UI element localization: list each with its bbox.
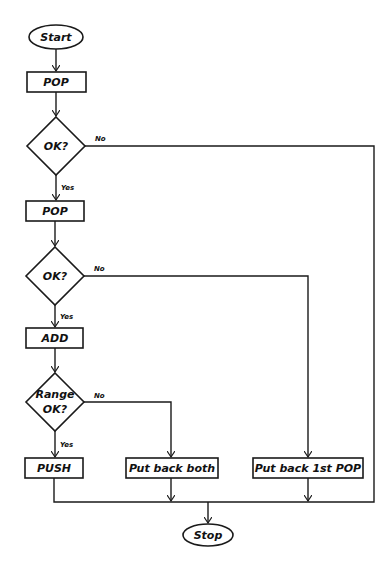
node-put-back-1st-pop: Put back 1st POP: [253, 458, 363, 478]
range-yes-label: Yes: [60, 441, 73, 449]
ok1-yes-label: Yes: [61, 184, 74, 192]
stop-label: Stop: [194, 529, 223, 542]
start-label: Start: [40, 31, 72, 44]
add-label: ADD: [41, 332, 69, 345]
node-ok2: OK?: [26, 247, 84, 305]
ok2-no-label: No: [94, 265, 105, 273]
node-start: Start: [29, 25, 83, 49]
ok1-no-label: No: [95, 135, 106, 143]
node-put-back-both: Put back both: [126, 458, 218, 478]
node-push: PUSH: [25, 458, 83, 478]
edge-range-no: [84, 402, 171, 457]
edge-push-stop: [54, 478, 208, 502]
put-back-1st-pop-label: Put back 1st POP: [255, 462, 361, 475]
edge-ok2-no: [84, 276, 308, 457]
edge-ok1-no: [85, 146, 374, 502]
node-add: ADD: [26, 328, 83, 348]
flowchart: Start POP OK? No Yes POP OK? No Yes ADD …: [0, 0, 390, 573]
node-range-ok: Range OK?: [26, 373, 84, 431]
node-ok1: OK?: [27, 117, 85, 175]
pop2-label: POP: [42, 205, 67, 218]
node-pop1: POP: [27, 72, 86, 92]
pop1-label: POP: [43, 76, 68, 89]
node-pop2: POP: [26, 201, 84, 221]
ok1-label: OK?: [44, 140, 69, 153]
range-no-label: No: [94, 392, 105, 400]
push-label: PUSH: [37, 462, 71, 475]
range-ok-label-line1: Range: [35, 388, 75, 401]
node-stop: Stop: [183, 524, 233, 546]
range-ok-label-line2: OK?: [43, 403, 68, 416]
ok2-label: OK?: [43, 270, 68, 283]
ok2-yes-label: Yes: [60, 313, 73, 321]
connectors: [54, 49, 374, 523]
put-back-both-label: Put back both: [129, 462, 215, 475]
